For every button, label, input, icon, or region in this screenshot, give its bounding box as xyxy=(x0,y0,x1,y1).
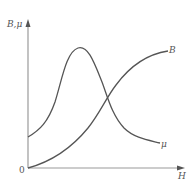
chart-figure: B,μ H 0 B μ xyxy=(0,0,195,195)
y-axis-arrow-icon xyxy=(26,19,31,27)
origin-label: 0 xyxy=(19,166,25,175)
chart-plot-area xyxy=(0,0,195,195)
x-axis-label: H xyxy=(178,172,186,181)
mu-curve-label: μ xyxy=(161,140,167,149)
x-axis-arrow-icon xyxy=(177,166,185,171)
b-curve-label: B xyxy=(169,46,176,55)
y-axis-label: B,μ xyxy=(7,20,22,29)
b-curve xyxy=(28,51,168,168)
